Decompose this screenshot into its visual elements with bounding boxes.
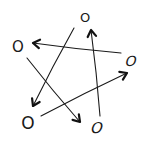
node-bottom-right: O — [89, 119, 106, 137]
edges-layer — [27, 28, 127, 122]
edge-line — [33, 43, 121, 53]
edge-bottom-left-to-right — [41, 72, 127, 116]
edge-line — [91, 30, 100, 116]
nodes-layer: OOOOO — [12, 10, 139, 137]
edge-line — [41, 73, 127, 116]
star-graph-diagram: OOOOO — [0, 0, 149, 143]
node-right: O — [123, 53, 138, 69]
edge-line — [27, 58, 80, 122]
edge-bottom-right-to-top — [88, 30, 100, 116]
node-top: O — [80, 10, 90, 25]
node-left: O — [12, 38, 24, 56]
node-bottom-left: O — [21, 113, 34, 133]
edge-right-to-left — [33, 40, 121, 53]
edge-left-to-bottom-right — [27, 58, 80, 122]
